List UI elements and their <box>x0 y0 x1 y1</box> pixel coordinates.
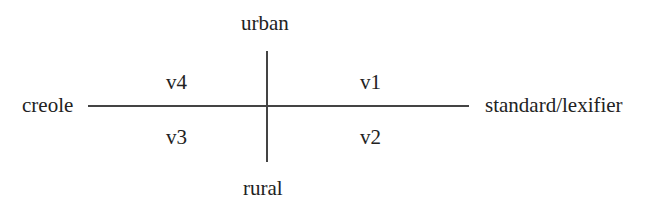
axis-label-creole: creole <box>22 95 73 116</box>
vertical-axis-line <box>266 51 268 162</box>
quadrant-label-v1: v1 <box>360 72 381 93</box>
quadrant-label-v3: v3 <box>166 127 187 148</box>
axis-label-urban: urban <box>241 13 289 34</box>
quadrant-label-v2: v2 <box>360 127 381 148</box>
quadrant-label-v4: v4 <box>166 72 187 93</box>
axis-label-standard-lexifier: standard/lexifier <box>485 95 623 116</box>
axis-label-rural: rural <box>243 178 283 199</box>
horizontal-axis-line <box>88 105 469 107</box>
